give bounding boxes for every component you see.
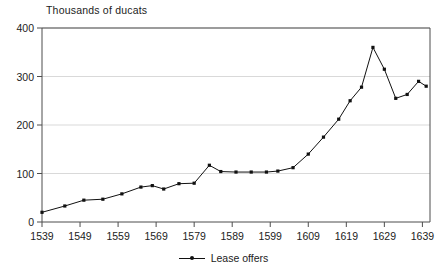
x-tick-label: 1609 [288,230,328,242]
x-tick-label: 1599 [250,230,290,242]
chart-container: Thousands of ducats 0100200300400 153915… [0,0,447,278]
x-tick-label: 1629 [364,230,404,242]
x-tick-label: 1619 [326,230,366,242]
legend-line-marker-icon [179,254,205,262]
x-tick-label: 1559 [98,230,138,242]
series-lease-offers [40,46,427,214]
x-tick-label: 1579 [174,230,214,242]
y-tick-label: 200 [4,119,34,131]
legend-label-lease-offers: Lease offers [211,252,269,264]
y-tick-label: 300 [4,71,34,83]
x-tick-label: 1639 [402,230,442,242]
x-tick-label: 1569 [136,230,176,242]
x-tick-label: 1589 [212,230,252,242]
x-tick-marks [42,222,422,227]
y-tick-marks [37,28,42,222]
y-tick-label: 400 [4,22,34,34]
y-tick-label: 0 [4,216,34,228]
x-tick-label: 1539 [22,230,62,242]
chart-legend: Lease offers [0,252,447,264]
x-tick-label: 1549 [60,230,100,242]
y-tick-label: 100 [4,168,34,180]
